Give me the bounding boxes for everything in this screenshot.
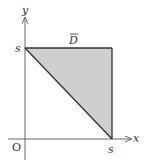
diagram: y x O s s D: [0, 0, 147, 167]
region-label: D: [68, 34, 78, 47]
y-axis-label: y: [21, 4, 29, 17]
x-tick-s-label: s: [108, 143, 114, 156]
x-axis-label: x: [133, 132, 140, 145]
origin-label: O: [12, 141, 21, 154]
y-tick-s-label: s: [15, 42, 21, 55]
